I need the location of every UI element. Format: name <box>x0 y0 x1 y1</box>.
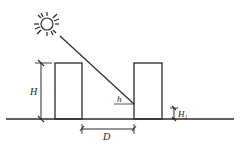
right-building <box>134 63 162 119</box>
building-height-label: H <box>29 86 38 97</box>
sill-height-label: H1 <box>177 109 188 120</box>
left-building <box>55 63 82 119</box>
spacing-label: D <box>102 131 111 142</box>
sunlight-spacing-diagram: h H D H1 <box>0 0 248 147</box>
sun-ray-line <box>60 36 134 104</box>
sun-altitude-label: h <box>117 94 122 104</box>
sun-icon <box>34 12 59 36</box>
